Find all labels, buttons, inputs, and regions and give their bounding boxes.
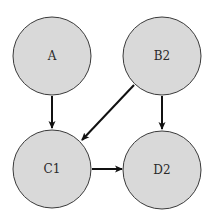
node-d2: D2: [123, 131, 201, 209]
graph-canvas: A B2 C1 D2: [0, 0, 211, 224]
node-a-label: A: [47, 49, 57, 63]
node-c1-label: C1: [44, 162, 61, 176]
node-b2-label: B2: [154, 49, 170, 63]
node-c1: C1: [13, 130, 91, 208]
edge-b2-to-c1: [82, 85, 134, 140]
node-d2-label: D2: [153, 163, 170, 177]
node-b2: B2: [123, 17, 201, 95]
node-a: A: [13, 17, 91, 95]
